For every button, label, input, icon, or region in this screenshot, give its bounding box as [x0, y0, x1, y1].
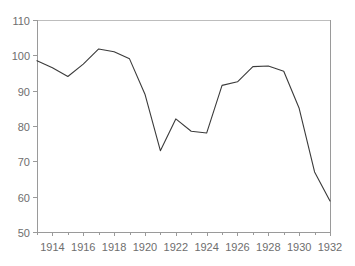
x-tick-label-1924: 1924 — [194, 241, 218, 253]
x-tick-label-1922: 1922 — [164, 241, 188, 253]
y-tick-label-50: 50 — [18, 227, 30, 239]
data-line-series-1 — [37, 49, 330, 201]
x-axis-tick-labels: 1914191619181920192219241926192819301932 — [40, 241, 342, 253]
y-axis-tick-labels: 5060708090100110 — [12, 15, 30, 239]
x-tick-label-1918: 1918 — [102, 241, 126, 253]
x-tick-label-1932: 1932 — [318, 241, 342, 253]
y-tick-label-80: 80 — [18, 121, 30, 133]
y-axis-ticks — [33, 21, 37, 233]
chart-canvas: 5060708090100110 19141916191819201922192… — [0, 0, 355, 266]
x-tick-label-1930: 1930 — [287, 241, 311, 253]
y-tick-label-100: 100 — [12, 50, 30, 62]
x-tick-label-1916: 1916 — [71, 241, 95, 253]
x-tick-label-1914: 1914 — [40, 241, 64, 253]
line-chart: 5060708090100110 19141916191819201922192… — [0, 0, 355, 266]
x-tick-label-1920: 1920 — [133, 241, 157, 253]
x-tick-label-1926: 1926 — [225, 241, 249, 253]
y-tick-label-60: 60 — [18, 192, 30, 204]
data-series-group — [37, 49, 330, 201]
y-tick-label-110: 110 — [12, 15, 30, 27]
y-tick-label-70: 70 — [18, 156, 30, 168]
x-tick-label-1928: 1928 — [256, 241, 280, 253]
y-tick-label-90: 90 — [18, 86, 30, 98]
